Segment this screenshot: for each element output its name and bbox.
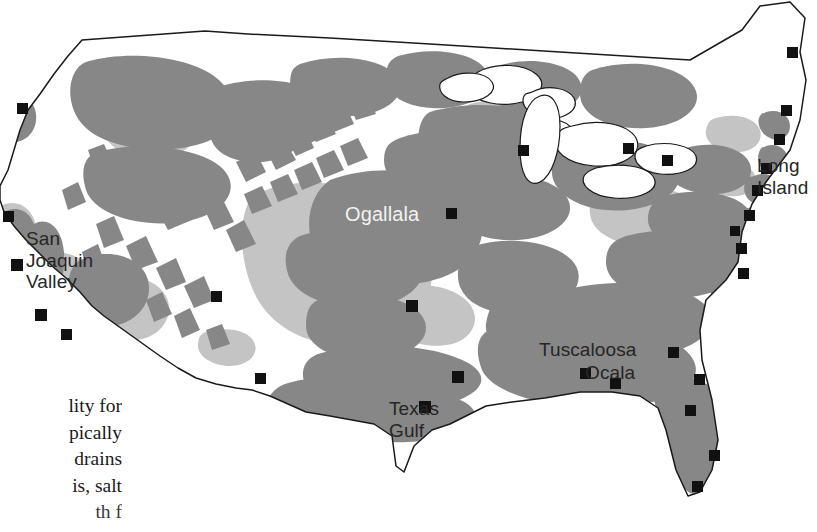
body-text-line: lity for [0, 393, 122, 420]
city-marker [211, 291, 222, 302]
city-marker [692, 481, 703, 492]
city-marker [662, 155, 673, 166]
map-label-long-island: Long Island [757, 155, 808, 198]
body-text-line: pically [0, 420, 122, 447]
city-marker [406, 300, 418, 312]
city-marker [452, 371, 464, 383]
city-marker [730, 226, 740, 236]
body-text-line: is, salt [0, 473, 122, 500]
city-marker [61, 329, 72, 340]
map-label-ogallala: Ogallala [345, 204, 419, 226]
city-marker [446, 208, 457, 219]
city-marker [255, 373, 266, 384]
page-root: San Joaquin Valley Ogallala Long Island … [0, 0, 817, 532]
city-marker [668, 347, 679, 358]
map-svg [0, 0, 817, 532]
body-text-line: th f [0, 499, 122, 526]
city-marker [694, 374, 705, 385]
city-marker [17, 103, 28, 114]
us-aquifer-map-figure: San Joaquin Valley Ogallala Long Island … [0, 0, 817, 532]
city-marker [709, 450, 720, 461]
page-body-text-column: lity for pically drains is, salt th f [0, 393, 122, 532]
city-marker [11, 259, 23, 271]
city-marker [738, 268, 749, 279]
city-marker [518, 145, 529, 156]
city-marker [781, 105, 792, 116]
city-marker [744, 210, 755, 221]
city-marker [623, 143, 634, 154]
city-marker [685, 405, 696, 416]
map-label-texas-gulf: Texas Gulf [389, 398, 439, 441]
city-marker [774, 134, 785, 145]
map-label-san-joaquin-valley: San Joaquin Valley [26, 228, 93, 293]
map-label-ocala: Ocala [585, 362, 635, 384]
city-marker [3, 211, 14, 222]
city-marker [35, 309, 47, 321]
city-marker [736, 243, 747, 254]
city-marker [787, 47, 798, 58]
body-text-line: drains [0, 446, 122, 473]
map-label-tuscaloosa: Tuscaloosa [539, 339, 636, 361]
